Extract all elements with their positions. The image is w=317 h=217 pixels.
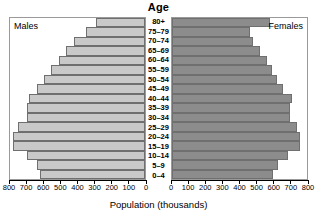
population-pyramid-chart: Age Males 80+75–7970–7465–6960–6455–5950… <box>0 0 317 217</box>
male-bar <box>13 141 145 150</box>
chart-title: Age <box>0 1 317 13</box>
female-bars-group <box>172 18 307 179</box>
male-bar <box>27 113 145 122</box>
age-group-label: 70–74 <box>146 36 171 46</box>
female-bar <box>172 46 260 55</box>
pyramid-row <box>172 141 307 150</box>
age-group-label: 60–64 <box>146 55 171 65</box>
pyramid-row <box>172 103 307 112</box>
pyramid-row <box>172 84 307 93</box>
pyramid-row <box>172 170 307 179</box>
female-bar <box>172 151 288 160</box>
axis-tick-label: 500 <box>54 184 67 192</box>
x-axis-right: 0100200300400500600700800 <box>171 180 308 198</box>
plot-area: Males 80+75–7970–7465–6960–6455–5950–544… <box>9 17 308 180</box>
age-group-label: 40–44 <box>146 94 171 104</box>
axis-tick-label: 300 <box>88 184 101 192</box>
age-group-label: 45–49 <box>146 84 171 94</box>
age-group-label: 50–54 <box>146 75 171 85</box>
pyramid-row <box>172 160 307 169</box>
male-bar <box>27 103 145 112</box>
age-group-label: 55–59 <box>146 65 171 75</box>
axis-gap <box>146 180 171 198</box>
age-labels-group: 80+75–7970–7465–6960–6455–5950–5445–4940… <box>146 17 171 180</box>
axis-tick-label: 700 <box>20 184 33 192</box>
axis-tick-label: 300 <box>216 184 229 192</box>
female-bar <box>172 132 300 141</box>
male-bar <box>13 132 145 141</box>
male-bar <box>96 18 145 27</box>
pyramid-row <box>10 56 145 65</box>
age-group-label: 25–29 <box>146 123 171 133</box>
male-bar <box>44 75 145 84</box>
axes-row: 8007006005004003002001000 01002003004005… <box>9 180 308 198</box>
age-group-label: 30–34 <box>146 113 171 123</box>
pyramid-row <box>10 37 145 46</box>
age-group-label: 20–24 <box>146 132 171 142</box>
pyramid-row <box>10 103 145 112</box>
male-bar <box>66 46 145 55</box>
axis-tick-label: 600 <box>267 184 280 192</box>
x-axis-left: 8007006005004003002001000 <box>9 180 146 198</box>
female-bar <box>172 65 272 74</box>
female-bar <box>172 18 270 27</box>
age-group-label: 15–19 <box>146 142 171 152</box>
age-group-label: 35–39 <box>146 103 171 113</box>
male-bar <box>37 160 145 169</box>
age-group-label: 10–14 <box>146 151 171 161</box>
axis-tick-label: 500 <box>250 184 263 192</box>
age-group-label: 75–79 <box>146 27 171 37</box>
female-bar <box>172 27 250 36</box>
female-bar <box>172 37 253 46</box>
female-bar <box>172 122 297 131</box>
pyramid-row <box>172 37 307 46</box>
male-bar <box>40 170 145 179</box>
pyramid-row <box>172 132 307 141</box>
female-bar <box>172 94 292 103</box>
female-bar <box>172 84 283 93</box>
pyramid-row <box>172 122 307 131</box>
male-bars-group <box>10 18 145 179</box>
axis-tick-label: 200 <box>199 184 212 192</box>
pyramid-row <box>10 75 145 84</box>
males-panel: Males <box>9 17 146 180</box>
male-bar <box>27 151 145 160</box>
axis-tick-label: 100 <box>123 184 136 192</box>
x-axis-caption: Population (thousands) <box>0 199 317 210</box>
age-group-label: 0–4 <box>146 171 171 181</box>
pyramid-row <box>10 46 145 55</box>
female-bar <box>172 160 278 169</box>
female-bar <box>172 141 300 150</box>
pyramid-row <box>10 151 145 160</box>
pyramid-row <box>10 65 145 74</box>
age-group-label: 5–9 <box>146 161 171 171</box>
axis-tick-label: 800 <box>302 184 315 192</box>
axis-tick-label: 200 <box>105 184 118 192</box>
pyramid-row <box>10 141 145 150</box>
female-bar <box>172 113 290 122</box>
pyramid-row <box>172 65 307 74</box>
axis-tick-label: 400 <box>71 184 84 192</box>
female-bar <box>172 75 277 84</box>
pyramid-row <box>10 84 145 93</box>
pyramid-row <box>172 113 307 122</box>
pyramid-row <box>172 46 307 55</box>
age-label-column: 80+75–7970–7465–6960–6455–5950–5445–4940… <box>146 17 171 180</box>
axis-tick-label: 400 <box>233 184 246 192</box>
females-panel: Females <box>171 17 308 180</box>
male-bar <box>74 37 145 46</box>
age-group-label: 65–69 <box>146 46 171 56</box>
male-bar <box>29 94 145 103</box>
axis-tick-label: 800 <box>3 184 16 192</box>
pyramid-row <box>172 56 307 65</box>
female-bar <box>172 56 267 65</box>
pyramid-row <box>172 151 307 160</box>
axis-tick-label: 0 <box>169 184 173 192</box>
pyramid-row <box>172 94 307 103</box>
male-bar <box>59 56 145 65</box>
pyramid-row <box>10 160 145 169</box>
female-bar <box>172 170 273 179</box>
male-bar <box>51 65 146 74</box>
females-label: Females <box>268 21 303 31</box>
male-bar <box>86 27 145 36</box>
